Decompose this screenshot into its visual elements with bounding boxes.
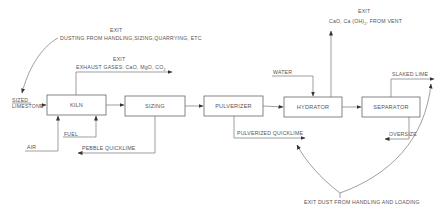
sizing-box: SIZING — [125, 96, 185, 116]
arrow-exhaust-exit — [76, 72, 172, 95]
pulverizer-label: PULVERIZER — [215, 103, 252, 109]
slaked-lime-label: SLAKED LIME — [392, 71, 429, 77]
arrow-handling-exit-left — [297, 145, 340, 193]
water-label: WATER — [273, 69, 292, 75]
sizing-label: SIZING — [145, 103, 165, 109]
process-flow-diagram: KILN SIZING PULVERIZER HYDRATOR SEPARATO… — [0, 0, 444, 214]
separator-box: SEPARATOR — [362, 97, 420, 117]
kiln-label: KILN — [70, 102, 83, 108]
oversize-label: OVERSIZE — [389, 131, 417, 137]
arrow-pulverizer-to-hydrator — [263, 106, 283, 107]
exhaust-exit-text: EXHAUST GASES: CaO, MgO, CO2 — [76, 64, 166, 72]
dusting-exit-title: EXIT — [110, 27, 123, 33]
separator-label: SEPARATOR — [373, 104, 408, 110]
kiln-box: KILN — [47, 95, 106, 115]
arrow-water-to-hydrator — [272, 76, 313, 96]
arrow-slaked-lime — [391, 79, 434, 97]
exhaust-exit-title: EXIT — [113, 56, 126, 62]
vent-exit-text: CaO, Ca (OH)2, FROM VENT — [329, 18, 403, 26]
fuel-label: FUEL — [64, 131, 78, 137]
vent-exit-title: EXIT — [358, 8, 371, 14]
sized-limestone-label-line2: LIMESTONE — [12, 103, 44, 109]
hydrator-box: HYDRATOR — [284, 97, 342, 117]
pulverizer-box: PULVERIZER — [204, 96, 263, 116]
dusting-exit-text: DUSTING FROM HANDLING,SIZING,QUARRYING, … — [60, 35, 202, 41]
arrow-dusting-exit — [22, 38, 58, 93]
pulverized-quicklime-label: PULVERIZED QUICKLIME — [237, 130, 304, 136]
handling-exit-text: EXIT DUST FROM HANDLING AND LOADING — [304, 199, 420, 205]
hydrator-label: HYDRATOR — [297, 104, 329, 110]
pebble-quicklime-label: PEBBLE QUICKLIME — [82, 145, 136, 151]
air-label: AIR — [27, 144, 36, 150]
